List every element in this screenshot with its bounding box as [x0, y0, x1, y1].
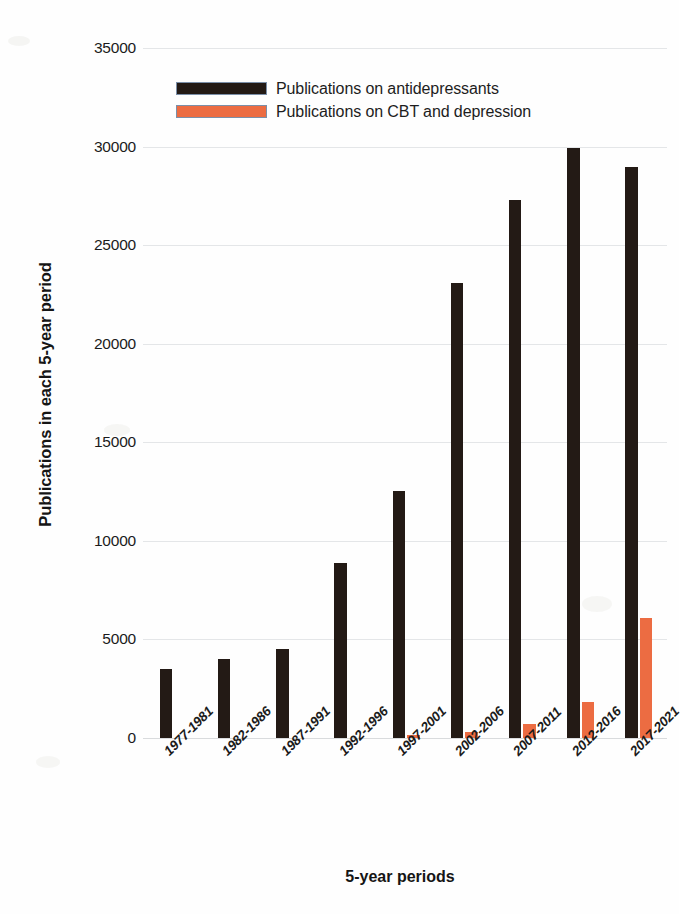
legend-item: Publications on CBT and depression — [176, 102, 531, 121]
bar-antidepressants-1982-1986 — [218, 659, 231, 738]
bar-group — [567, 48, 594, 738]
bar-group — [160, 48, 187, 738]
bar-antidepressants-1977-1981 — [160, 669, 173, 738]
bar-group — [509, 48, 536, 738]
chart-legend: Publications on antidepressantsPublicati… — [176, 79, 531, 121]
bar-group — [625, 48, 652, 738]
y-axis-tick-label: 20000 — [56, 335, 136, 353]
y-axis-tick-label: 35000 — [56, 39, 136, 57]
y-axis-tick-label: 0 — [56, 729, 136, 747]
y-axis-tick-labels: 35000300002500020000150001000050000 — [48, 48, 136, 738]
legend-swatch-dark — [176, 82, 267, 95]
bar-group — [276, 48, 303, 738]
bar-group — [393, 48, 420, 738]
legend-label: Publications on CBT and depression — [276, 103, 531, 121]
bar-group — [334, 48, 361, 738]
x-axis-tick-labels: 1977-19811982-19861987-19911992-19961997… — [143, 738, 667, 858]
y-axis-tick-label: 25000 — [56, 236, 136, 254]
x-axis-title: 5-year periods — [130, 868, 670, 886]
y-axis-tick-label: 30000 — [56, 138, 136, 156]
y-axis-tick-label: 10000 — [56, 532, 136, 550]
bar-group — [451, 48, 478, 738]
legend-item: Publications on antidepressants — [176, 79, 531, 98]
bar-cbt-2017-2021 — [640, 618, 653, 738]
bar-antidepressants-2002-2006 — [451, 283, 464, 738]
legend-swatch-orange — [176, 105, 267, 118]
legend-label: Publications on antidepressants — [276, 80, 499, 98]
y-axis-tick-label: 5000 — [56, 630, 136, 648]
bar-antidepressants-2007-2011 — [509, 200, 522, 738]
bar-antidepressants-1992-1996 — [334, 563, 347, 738]
bar-group — [218, 48, 245, 738]
y-axis-tick-label: 15000 — [56, 433, 136, 451]
bar-antidepressants-2017-2021 — [625, 167, 638, 738]
plot-area — [143, 48, 667, 738]
bar-antidepressants-2012-2016 — [567, 148, 580, 738]
bar-antidepressants-1997-2001 — [393, 491, 406, 738]
bar-antidepressants-1987-1991 — [276, 649, 289, 738]
